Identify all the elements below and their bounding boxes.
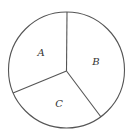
- sector-label-c: C: [55, 99, 63, 109]
- radius-line-lower-left: [13, 71, 67, 93]
- sector-label-b: B: [92, 57, 99, 67]
- circle-graphic: [0, 0, 133, 138]
- radius-line-lower-right: [67, 71, 102, 117]
- radius-line-top: [67, 12, 68, 71]
- circle-diagram: A B C: [0, 0, 133, 138]
- sector-label-a: A: [37, 48, 44, 58]
